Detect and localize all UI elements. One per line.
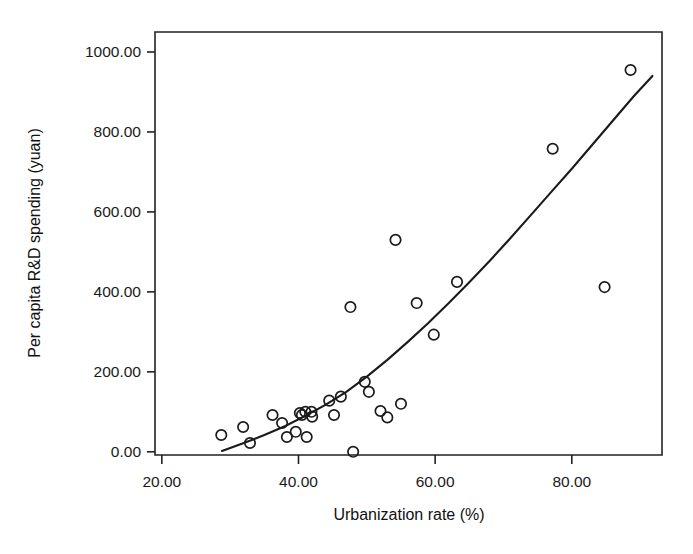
scatter-point <box>382 412 392 422</box>
chart-canvas: 0.00200.00400.00600.00800.001000.00 20.0… <box>0 0 693 554</box>
y-axis-ticks <box>147 52 155 452</box>
scatter-point <box>390 235 400 245</box>
scatter-point <box>412 298 422 308</box>
x-tick-label: 60.00 <box>416 473 455 490</box>
frame-border <box>155 32 662 455</box>
scatter-point <box>238 422 248 432</box>
regression-fit-curve <box>222 76 652 451</box>
scatter-point <box>301 432 311 442</box>
y-tick-label: 200.00 <box>94 363 142 380</box>
y-tick-label: 400.00 <box>94 283 142 300</box>
scatter-point <box>345 302 355 312</box>
scatter-point <box>216 430 226 440</box>
x-axis-ticks <box>162 455 572 464</box>
scatter-point <box>375 406 385 416</box>
y-tick-label: 800.00 <box>94 123 142 140</box>
x-tick-label: 20.00 <box>142 473 181 490</box>
scatter-point <box>291 427 301 437</box>
scatter-plot-figure: 0.00200.00400.00600.00800.001000.00 20.0… <box>0 0 693 554</box>
fit-curve-group <box>222 76 652 451</box>
scatter-point <box>364 387 374 397</box>
scatter-point <box>452 277 462 287</box>
scatter-point <box>547 144 557 154</box>
x-axis-title: Urbanization rate (%) <box>333 506 484 523</box>
scatter-point <box>267 410 277 420</box>
plot-frame <box>155 32 662 455</box>
y-tick-label: 0.00 <box>111 443 142 460</box>
x-tick-label: 80.00 <box>552 473 591 490</box>
y-tick-label: 600.00 <box>94 203 142 220</box>
scatter-point <box>429 329 439 339</box>
scatter-point <box>396 399 406 409</box>
scatter-points-group <box>216 65 636 457</box>
x-tick-label: 40.00 <box>279 473 318 490</box>
scatter-point <box>599 282 609 292</box>
scatter-point <box>625 65 635 75</box>
y-tick-label: 1000.00 <box>85 43 141 60</box>
y-axis-title: Per capita R&D spending (yuan) <box>26 128 43 357</box>
x-axis-tick-labels: 20.0040.0060.0080.00 <box>142 473 591 490</box>
y-axis-tick-labels: 0.00200.00400.00600.00800.001000.00 <box>85 43 141 460</box>
scatter-point <box>329 410 339 420</box>
